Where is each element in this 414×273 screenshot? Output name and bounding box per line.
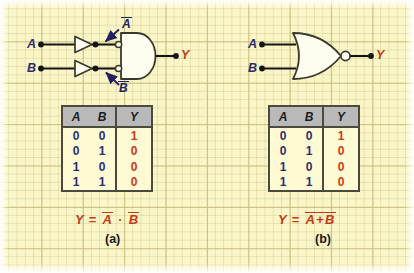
panel-b-caption: (b) <box>315 232 331 246</box>
cell-y: 0 <box>116 159 152 175</box>
cell-a: 0 <box>62 144 89 160</box>
table-row: 1 0 0 <box>62 159 152 175</box>
equation-lhs: Y <box>278 212 287 227</box>
cell-y: 0 <box>323 144 359 160</box>
header-y: Y <box>116 106 152 127</box>
cell-a: 1 <box>269 175 296 192</box>
cell-b: 0 <box>89 127 116 144</box>
terminal-dot-y <box>368 53 374 59</box>
panel-b-input-b-label: B <box>248 61 257 75</box>
equation-operator: + <box>315 212 325 227</box>
cell-a: 0 <box>269 144 296 160</box>
table-row: 1 1 0 <box>269 175 359 192</box>
equation-term2: B <box>128 212 140 228</box>
table-row: 0 1 0 <box>269 144 359 160</box>
nor-gate-body <box>293 33 341 79</box>
cell-y: 1 <box>116 127 152 144</box>
and-gate-input-bubble-a <box>116 41 122 47</box>
equation-equals: = <box>291 212 301 227</box>
panel-b-circuit <box>259 33 374 79</box>
table-row: 1 0 0 <box>269 159 359 175</box>
table-row: 0 1 0 <box>62 144 152 160</box>
cell-b: 0 <box>89 159 116 175</box>
terminal-dot-a <box>259 42 265 48</box>
panel-a-circuit <box>38 30 179 86</box>
panel-a-equation: Y = A · B <box>75 212 139 228</box>
table-row: 1 1 0 <box>62 175 152 192</box>
cell-b: 1 <box>89 144 116 160</box>
terminal-dot-y <box>173 53 179 59</box>
panel-a-caption: (a) <box>105 232 120 246</box>
table-header-row: A B Y <box>62 106 152 127</box>
and-gate-body <box>121 33 156 79</box>
annotation-not-b: B <box>118 81 129 95</box>
terminal-dot-b <box>38 66 44 72</box>
panel-b-equation: Y = A+B <box>278 212 336 228</box>
cell-y: 0 <box>323 159 359 175</box>
header-y: Y <box>323 106 359 127</box>
arrow-to-nota <box>106 30 120 42</box>
panel-a-input-b-label: B <box>27 61 36 75</box>
panel-a-output-y-label: Y <box>181 48 189 62</box>
table-row: 0 0 1 <box>62 127 152 144</box>
header-a: A <box>62 106 89 127</box>
and-gate-input-bubble-b <box>116 65 122 71</box>
cell-y: 1 <box>323 127 359 144</box>
equation-term1: A <box>102 212 114 228</box>
figure-canvas: A B Y A B A B Y 0 0 1 0 1 0 1 0 <box>0 0 414 273</box>
cell-a: 0 <box>62 127 89 144</box>
header-a: A <box>269 106 296 127</box>
header-b: B <box>89 106 116 127</box>
panel-b-output-y-label: Y <box>376 48 384 62</box>
cell-b: 1 <box>296 175 323 192</box>
equation-operator: · <box>117 212 124 227</box>
cell-b: 1 <box>89 175 116 192</box>
cell-y: 0 <box>116 144 152 160</box>
panel-a-truth-table: A B Y 0 0 1 0 1 0 1 0 0 1 1 <box>61 105 153 192</box>
cell-b: 0 <box>296 127 323 144</box>
junction-dot-notb <box>93 66 99 72</box>
junction-dot-nota <box>93 42 99 48</box>
table-header-row: A B Y <box>269 106 359 127</box>
annotation-not-a-text: A <box>121 17 132 31</box>
panel-b-input-a-label: A <box>248 37 257 51</box>
panel-b-truth-table: A B Y 0 0 1 0 1 0 1 0 0 1 1 <box>268 105 360 192</box>
cell-a: 0 <box>269 127 296 144</box>
cell-y: 0 <box>116 175 152 192</box>
annotation-not-b-text: B <box>118 81 129 95</box>
cell-y: 0 <box>323 175 359 192</box>
equation-term1: A <box>306 212 316 227</box>
panel-a-input-a-label: A <box>27 37 36 51</box>
terminal-dot-a <box>38 42 44 48</box>
table-row: 0 0 1 <box>269 127 359 144</box>
annotation-not-a: A <box>121 17 132 31</box>
equation-lhs: Y <box>75 212 84 227</box>
cell-a: 1 <box>62 175 89 192</box>
cell-a: 1 <box>62 159 89 175</box>
cell-a: 1 <box>269 159 296 175</box>
header-b: B <box>296 106 323 127</box>
terminal-dot-b <box>259 66 265 72</box>
equation-overbar-group: A+B <box>305 212 336 228</box>
nor-gate-output-bubble <box>341 51 350 60</box>
inverter-b-body <box>75 61 92 77</box>
cell-b: 0 <box>296 159 323 175</box>
equation-equals: = <box>88 212 98 227</box>
equation-term2: B <box>325 212 335 227</box>
cell-b: 1 <box>296 144 323 160</box>
inverter-a-body <box>75 37 92 53</box>
